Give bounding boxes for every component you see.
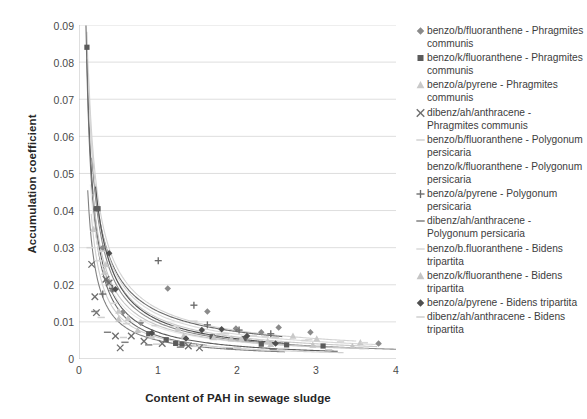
diamond-marker: [414, 24, 427, 37]
legend-label: benzo/b.fluoranthene - Bidens tripartita: [427, 242, 584, 268]
legend-item[interactable]: dibenz/ah/anthracene - Phragmites commun…: [414, 106, 584, 132]
data-point: [115, 316, 122, 322]
legend-item[interactable]: dibenz/ah/anthracene - Polygonum persica…: [414, 214, 584, 240]
cross-x-marker: [414, 106, 427, 119]
x-tick-0: 0: [64, 364, 94, 376]
legend: benzo/b/fluoranthene - Phragmites commun…: [414, 24, 584, 337]
trendline: [90, 184, 364, 348]
trendline: [86, 26, 207, 346]
data-point: [88, 261, 95, 268]
data-series: [90, 226, 364, 345]
legend-item[interactable]: benzo/b/fluoranthene - Phragmites commun…: [414, 24, 584, 50]
chart-container: Accumulation coefficient 0.09 0.08 0.07 …: [0, 0, 587, 419]
data-point: [155, 257, 162, 264]
y-tick-0.02: 0.02: [34, 280, 74, 291]
plus-marker: [414, 187, 427, 200]
data-point: [275, 324, 282, 331]
data-point: [95, 206, 100, 211]
data-point: [117, 345, 124, 352]
legend-label: benzo/b/fluoranthene - Phragmites commun…: [427, 24, 584, 50]
data-point: [320, 343, 325, 348]
trendline: [87, 32, 377, 347]
y-tick-0.09: 0.09: [34, 21, 74, 32]
legend-label: benzo/a/pyrene - Polygonum persicaria: [427, 187, 584, 213]
legend-item[interactable]: benzo/b.fluoranthene - Bidens tripartita: [414, 242, 584, 268]
data-point: [173, 341, 178, 346]
y-tick-0.04: 0.04: [34, 206, 74, 217]
legend-item[interactable]: dibenz/ah/anthracene - Bidens tripartita: [414, 310, 584, 336]
legend-item[interactable]: benzo/k/fluoranthene - Polygonum persica…: [414, 160, 584, 186]
data-point: [179, 342, 184, 347]
legend-label: dibenz/ah/anthracene - Bidens tripartita: [427, 310, 584, 336]
plot-area: [79, 25, 396, 359]
data-point: [284, 342, 289, 347]
plot-svg: [79, 25, 396, 359]
diamond-filled-marker: [414, 296, 427, 309]
legend-item[interactable]: benzo/k/fluoranthene - Bidens tripartita: [414, 269, 584, 295]
legend-label: dibenz/ah/anthracene - Polygonum persica…: [427, 214, 584, 240]
data-point: [165, 285, 172, 292]
y-tick-0: 0: [34, 354, 74, 365]
dash-marker: [414, 242, 427, 255]
data-point: [290, 333, 297, 339]
data-point: [115, 307, 122, 313]
y-tick-0.03: 0.03: [34, 243, 74, 254]
blank-marker: [414, 160, 427, 173]
dash-marker: [414, 214, 427, 227]
legend-label: benzo/a/pyrene - Bidens tripartita: [427, 296, 584, 309]
data-point: [204, 308, 210, 315]
x-tick-3: 3: [301, 364, 331, 376]
y-tick-0.06: 0.06: [34, 132, 74, 143]
trendline: [89, 110, 381, 345]
triangle-marker: [414, 78, 427, 91]
legend-label: benzo/b/fluoranthene - Polygonum persica…: [427, 133, 584, 159]
data-point: [93, 309, 100, 316]
legend-item[interactable]: benzo/a/pyrene - Phragmites communis: [414, 78, 584, 104]
x-tick-2: 2: [222, 364, 252, 376]
legend-label: dibenz/ah/anthracene - Phragmites commun…: [427, 106, 584, 132]
x-tick-4: 4: [381, 364, 411, 376]
dash-marker: [414, 133, 427, 146]
legend-label: benzo/k/fluoranthene - Bidens tripartita: [427, 269, 584, 295]
y-tick-0.07: 0.07: [34, 95, 74, 106]
trendline: [91, 214, 343, 353]
legend-label: benzo/k/fluoranthene - Polygonum persica…: [427, 160, 584, 186]
legend-label: benzo/k/fluoranthene - Phragmites commun…: [427, 51, 584, 77]
square-marker: [414, 51, 427, 64]
y-tick-0.08: 0.08: [34, 58, 74, 69]
legend-label: benzo/a/pyrene - Phragmites communis: [427, 78, 584, 104]
data-point: [259, 342, 264, 347]
data-point: [134, 327, 141, 333]
data-point: [309, 342, 316, 348]
data-point: [84, 45, 89, 50]
triangle-marker: [414, 269, 427, 282]
data-point: [307, 329, 314, 336]
legend-item[interactable]: benzo/b/fluoranthene - Polygonum persica…: [414, 133, 584, 159]
data-point: [128, 333, 135, 340]
x-tick-1: 1: [143, 364, 173, 376]
data-point: [196, 345, 203, 352]
y-tick-0.05: 0.05: [34, 169, 74, 180]
x-axis-title: Content of PAH in sewage sludge: [79, 392, 397, 404]
legend-item[interactable]: benzo/a/pyrene - Polygonum persicaria: [414, 187, 584, 213]
data-point: [190, 302, 197, 309]
y-tick-0.01: 0.01: [34, 317, 74, 328]
dash-marker: [414, 310, 427, 323]
legend-item[interactable]: benzo/k/fluoranthene - Phragmites commun…: [414, 51, 584, 77]
data-point: [112, 333, 119, 340]
y-axis-tick-labels: 0.09 0.08 0.07 0.06 0.05 0.04 0.03 0.02 …: [30, 0, 74, 419]
legend-item[interactable]: benzo/a/pyrene - Bidens tripartita: [414, 296, 584, 309]
data-point: [141, 338, 148, 345]
trendline: [92, 158, 396, 350]
trendline: [93, 194, 369, 349]
data-point: [92, 293, 99, 300]
trendline: [88, 73, 356, 341]
data-point: [375, 340, 382, 347]
